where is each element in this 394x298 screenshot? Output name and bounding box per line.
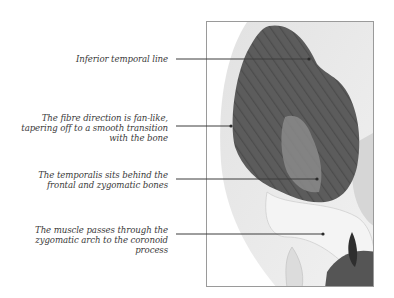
annotation-zygomatic-arch: The muscle passes through the zygomatic … [35, 225, 168, 255]
annotation-temporalis-position: The temporalis sits behind the frontal a… [38, 170, 168, 190]
annotation-inferior-temporal-line: Inferior temporal line [76, 54, 168, 64]
anatomy-illustration [206, 21, 374, 287]
annotation-fibre-direction: The fibre direction is fan-like, taperin… [21, 113, 168, 143]
skull-temporalis-illustration [207, 22, 374, 287]
